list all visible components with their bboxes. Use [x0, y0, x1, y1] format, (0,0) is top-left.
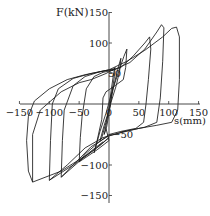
x-tick-label: 50: [132, 107, 145, 118]
x-axis-label: s(mm): [174, 115, 206, 126]
y-axis-label: F(kN): [56, 6, 89, 19]
y-tick-label: −100: [81, 160, 108, 171]
hysteresis-chart: −150−100−50050100150−150−100−5050100150 …: [0, 0, 210, 216]
y-tick-label: 100: [89, 38, 108, 49]
y-tick-label: 150: [89, 7, 108, 18]
y-tick-label: −50: [112, 129, 133, 140]
x-tick-label: −100: [36, 107, 63, 118]
x-tick-label: −50: [69, 107, 90, 118]
hysteresis-loop: [79, 37, 151, 162]
y-tick-label: −150: [81, 190, 108, 201]
x-tick-label: −150: [6, 107, 33, 118]
chart-canvas: −150−100−50050100150−150−100−5050100150 …: [0, 0, 210, 216]
x-tick-label: 0: [106, 107, 112, 118]
y-tick-label: 50: [108, 68, 121, 79]
